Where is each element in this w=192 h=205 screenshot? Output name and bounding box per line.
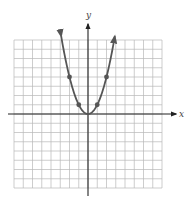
- data-point: [95, 102, 100, 107]
- y-axis-label: y: [85, 10, 92, 20]
- x-axis-label: x: [179, 109, 184, 119]
- parabola-chart: x y: [0, 0, 192, 205]
- data-point: [104, 75, 109, 80]
- data-point: [67, 75, 72, 80]
- data-point: [76, 102, 81, 107]
